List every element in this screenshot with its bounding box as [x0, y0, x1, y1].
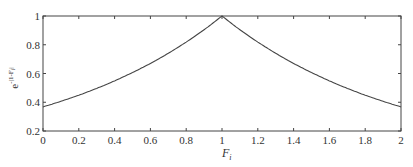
svg-text:0.8: 0.8: [179, 134, 193, 146]
svg-text:1.4: 1.4: [287, 134, 301, 146]
svg-text:1.6: 1.6: [323, 134, 337, 146]
y-axis-ticks: 0.20.40.60.81: [26, 10, 401, 137]
svg-text:0.8: 0.8: [26, 39, 40, 51]
svg-text:1.8: 1.8: [358, 134, 372, 146]
y-axis-label: e-|1-Fi|: [7, 67, 20, 88]
svg-text:0.6: 0.6: [144, 134, 158, 146]
svg-text:1: 1: [219, 134, 225, 146]
svg-text:0.2: 0.2: [72, 134, 86, 146]
svg-text:2: 2: [398, 134, 404, 146]
svg-text:0.2: 0.2: [26, 125, 40, 137]
svg-text:0: 0: [40, 134, 46, 146]
svg-text:1: 1: [35, 10, 41, 22]
chart: 00.20.40.60.811.21.41.61.82 0.20.40.60.8…: [0, 0, 413, 167]
plot-area: [43, 16, 401, 131]
svg-text:0.6: 0.6: [26, 68, 40, 80]
x-axis-label: Fi: [221, 146, 232, 162]
svg-text:1.2: 1.2: [251, 134, 265, 146]
x-axis-ticks: 00.20.40.60.811.21.41.61.82: [40, 16, 404, 146]
svg-text:0.4: 0.4: [108, 134, 122, 146]
data-line: [43, 16, 401, 107]
svg-text:0.4: 0.4: [26, 96, 40, 108]
